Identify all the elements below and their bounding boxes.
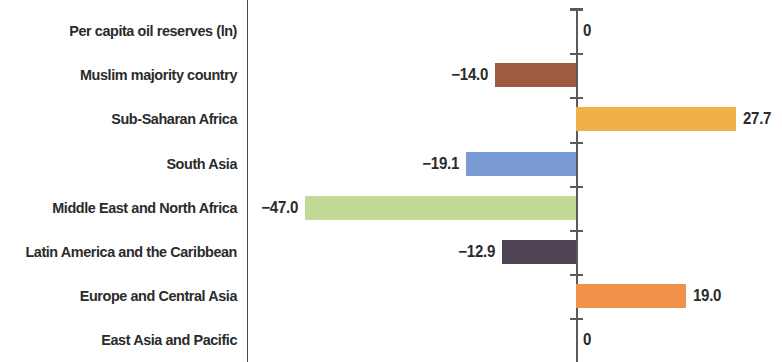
plot-area: 0−14.027.7−19.1−47.0−12.919.00 <box>0 0 782 362</box>
axis-tick <box>570 53 583 55</box>
bar-value-label: 27.7 <box>743 111 771 127</box>
bar <box>576 107 736 131</box>
axis-tick <box>570 186 583 188</box>
bar <box>576 284 686 308</box>
bar-value-label: −14.0 <box>452 67 489 83</box>
axis-tick <box>570 274 583 276</box>
zero-axis-line <box>576 8 578 362</box>
diverging-bar-chart: Per capita oil reserves (ln)Muslim major… <box>0 0 782 362</box>
bar <box>305 196 576 220</box>
axis-tick <box>570 230 583 232</box>
bar-value-label: 19.0 <box>693 288 721 304</box>
bar <box>495 63 576 87</box>
bar <box>502 240 576 264</box>
axis-tick <box>570 97 583 99</box>
axis-tick-top <box>570 8 583 10</box>
bar-value-label: −47.0 <box>261 200 298 216</box>
bar-value-label: −12.9 <box>458 244 495 260</box>
bar-value-label: 0 <box>583 332 591 348</box>
bar-value-label: −19.1 <box>422 156 459 172</box>
bar-value-label: 0 <box>583 23 591 39</box>
axis-tick <box>570 318 583 320</box>
axis-tick <box>570 142 583 144</box>
bar <box>466 152 576 176</box>
